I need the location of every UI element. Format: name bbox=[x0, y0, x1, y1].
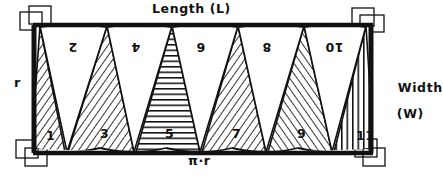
wedge-number-7: 7 bbox=[232, 126, 241, 141]
wedge-number-3: 3 bbox=[100, 126, 109, 141]
wedge-number-11: 11 bbox=[356, 128, 375, 143]
label-width-line2: (W) bbox=[378, 107, 443, 120]
wedge-number-1: 1 bbox=[46, 128, 55, 143]
wedge-number-4: 4 bbox=[131, 40, 140, 55]
wedge-number-8: 8 bbox=[262, 40, 271, 55]
wedge-number-9: 9 bbox=[297, 126, 306, 141]
wedge-number-5: 5 bbox=[165, 126, 174, 141]
label-radius: r bbox=[14, 76, 21, 90]
wedge-number-6: 6 bbox=[196, 40, 205, 55]
wedge-number-2: 2 bbox=[68, 40, 77, 55]
label-length: Length (L) bbox=[152, 2, 231, 15]
label-width: Width (W) bbox=[378, 68, 443, 147]
label-half-circumference: π·r bbox=[188, 154, 211, 167]
wedge-number-10: 10 bbox=[325, 40, 344, 55]
label-width-line1: Width bbox=[398, 80, 443, 95]
